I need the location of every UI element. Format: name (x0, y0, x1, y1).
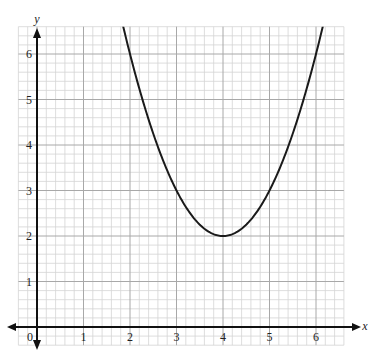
y-tick-label: 1 (26, 275, 32, 289)
major-grid (18, 27, 344, 346)
y-tick-label: 2 (26, 229, 32, 243)
tick-labels: 1234561234560xy (26, 12, 368, 344)
x-tick-label: 3 (174, 330, 180, 344)
y-axis-arrow-up-icon (33, 28, 41, 38)
y-tick-label: 4 (26, 138, 32, 152)
x-axis-arrow-left-icon (7, 323, 16, 331)
minor-grid (18, 27, 344, 346)
origin-label: 0 (27, 330, 33, 344)
x-tick-label: 6 (313, 330, 319, 344)
x-tick-label: 5 (267, 330, 273, 344)
y-tick-label: 5 (26, 93, 32, 107)
chart-svg: 1234561234560xy (0, 0, 370, 361)
y-tick-label: 6 (26, 47, 32, 61)
x-tick-label: 2 (127, 330, 133, 344)
axes (7, 28, 361, 350)
y-axis-label: y (33, 12, 40, 26)
x-tick-label: 4 (220, 330, 226, 344)
x-tick-label: 1 (81, 330, 87, 344)
x-axis-label: x (361, 319, 368, 333)
x-axis-arrow-right-icon (352, 323, 361, 331)
y-tick-label: 3 (26, 184, 32, 198)
